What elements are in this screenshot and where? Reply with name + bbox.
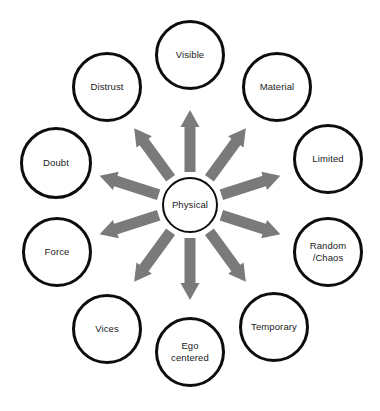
arrow-to-random-chaos [218,206,283,243]
arrow-to-material [202,123,254,184]
arrow-to-visible-shape [181,110,200,172]
node-vices[interactable]: Vices [72,294,142,364]
node-physical[interactable]: Physical [162,177,218,233]
node-label-material: Material [260,81,295,93]
node-label-random-chaos: Random /Chaos [310,240,347,264]
node-label-limited: Limited [312,153,343,165]
node-label-doubt: Doubt [43,157,69,169]
arrow-to-force [97,206,162,243]
arrow-to-distrust-shape [126,123,178,184]
node-random-chaos[interactable]: Random /Chaos [293,217,363,287]
node-distrust[interactable]: Distrust [72,52,142,122]
radial-diagram: VisibleMaterialLimitedRandom /ChaosTempo… [0,0,380,411]
node-label-force: Force [45,246,70,258]
node-limited[interactable]: Limited [293,124,363,194]
arrow-to-force-shape [97,206,162,243]
arrow-to-vices-shape [126,226,178,287]
node-temporary[interactable]: Temporary [239,292,309,362]
arrow-to-temporary [202,226,254,287]
arrow-to-distrust [126,123,178,184]
arrow-to-vices [126,226,178,287]
node-label-temporary: Temporary [251,321,297,333]
node-force[interactable]: Force [22,217,92,287]
arrow-to-doubt-shape [97,167,162,204]
node-label-distrust: Distrust [91,81,124,93]
node-label-visible: Visible [176,49,205,61]
node-visible[interactable]: Visible [155,20,225,90]
arrow-to-limited [218,167,283,204]
arrow-to-limited-shape [218,167,283,204]
arrow-to-visible [181,110,200,172]
arrow-to-ego-centered-shape [181,238,200,300]
arrow-to-ego-centered [181,238,200,300]
arrow-to-doubt [97,167,162,204]
node-material[interactable]: Material [242,52,312,122]
node-label-ego-centered: Ego centered [171,340,209,364]
arrow-to-random-chaos-shape [218,206,283,243]
node-label-physical: Physical [172,199,208,211]
node-label-vices: Vices [95,323,119,335]
node-doubt[interactable]: Doubt [20,127,92,199]
arrow-to-material-shape [202,123,254,184]
arrow-to-temporary-shape [202,226,254,287]
node-ego-centered[interactable]: Ego centered [155,317,225,387]
